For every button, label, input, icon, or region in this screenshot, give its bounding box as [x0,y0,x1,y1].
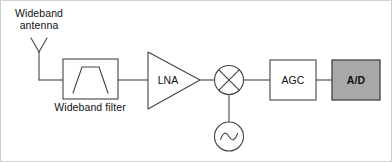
mixer-block [215,66,244,95]
antenna-label-line2: antenna [15,19,63,31]
local-oscillator-block [215,122,244,151]
agc-label: AGC [281,74,304,86]
antenna-label-line1: Wideband [15,7,63,19]
wideband-filter-label: Wideband filter [54,101,126,113]
block-diagram-canvas: Wideband antenna Wideband filter LNA AGC… [0,0,392,162]
antenna-symbol [31,38,47,80]
antenna-label: Wideband antenna [15,7,63,31]
ad-label: A/D [347,74,365,86]
lna-label: LNA [158,74,179,86]
wideband-filter-block [63,59,118,99]
